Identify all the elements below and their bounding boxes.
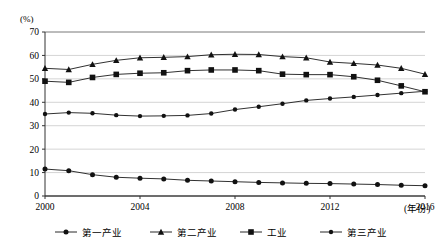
data-point-3-7 (209, 111, 213, 115)
data-point-0-1 (66, 168, 71, 173)
legend-label-0: 第一产业 (82, 227, 122, 238)
line-chart: 010203040506070 20002004200820122016 (%)… (0, 0, 442, 247)
y-tick-label-10: 10 (30, 168, 40, 178)
data-point-3-8 (233, 107, 237, 111)
data-point-3-4 (138, 114, 142, 118)
data-point-3-15 (399, 91, 403, 95)
data-point-0-7 (209, 179, 214, 184)
data-point-3-9 (257, 105, 261, 109)
legend-label-1: 第二产业 (177, 227, 217, 238)
data-point-2-2 (90, 75, 96, 81)
data-point-2-9 (256, 68, 262, 74)
data-point-0-6 (185, 178, 190, 183)
data-point-2-14 (375, 77, 381, 83)
data-point-2-12 (327, 72, 333, 78)
data-point-0-13 (351, 182, 356, 187)
legend-marker-circle-icon (64, 230, 69, 235)
data-point-2-0 (42, 78, 48, 84)
y-tick-label-0: 0 (34, 191, 39, 201)
data-point-2-7 (208, 67, 214, 73)
data-point-0-3 (114, 175, 119, 180)
data-point-2-4 (137, 70, 143, 76)
x-axis-title: (年份) (404, 203, 430, 215)
data-point-0-8 (233, 179, 238, 184)
data-point-3-1 (67, 110, 71, 114)
data-point-2-3 (113, 72, 119, 78)
y-tick-label-30: 30 (30, 121, 40, 131)
y-axis-unit-label: (%) (20, 14, 34, 24)
data-point-0-14 (375, 182, 380, 187)
data-point-3-13 (352, 95, 356, 99)
y-tick-label-70: 70 (30, 27, 40, 37)
data-point-3-10 (280, 101, 284, 105)
y-tick-label-40: 40 (30, 98, 40, 108)
x-tick-label-2008: 2008 (226, 202, 245, 212)
data-point-0-4 (138, 176, 143, 181)
data-point-3-14 (375, 93, 379, 97)
legend-label-3: 第三产业 (347, 227, 387, 238)
data-point-0-10 (280, 180, 285, 185)
y-tick-label-50: 50 (30, 74, 40, 84)
data-point-0-12 (328, 181, 333, 186)
plot-background (0, 0, 442, 247)
x-tick-label-2004: 2004 (131, 202, 150, 212)
chart-canvas: 010203040506070 20002004200820122016 (%)… (0, 0, 442, 247)
data-point-2-15 (398, 83, 404, 89)
data-point-2-11 (303, 72, 309, 78)
x-tick-label-2000: 2000 (36, 202, 55, 212)
data-point-2-6 (185, 68, 191, 74)
data-point-0-5 (161, 176, 166, 181)
data-point-3-2 (90, 111, 94, 115)
data-point-2-1 (66, 80, 72, 86)
legend-label-2: 工业 (267, 228, 287, 238)
data-point-0-16 (423, 183, 428, 188)
x-tick-label-2012: 2012 (321, 202, 340, 212)
data-point-0-15 (399, 183, 404, 188)
y-tick-label-20: 20 (30, 145, 40, 155)
data-point-2-13 (351, 74, 357, 80)
y-tick-label-60: 60 (30, 51, 40, 61)
legend-marker-dot-icon (329, 230, 333, 234)
data-point-3-5 (162, 114, 166, 118)
data-point-0-0 (43, 167, 48, 172)
legend-marker-square-icon (248, 229, 254, 235)
data-point-3-3 (114, 113, 118, 117)
data-point-3-11 (304, 98, 308, 102)
data-point-0-2 (90, 172, 95, 177)
data-point-3-12 (328, 96, 332, 100)
data-point-3-6 (185, 113, 189, 117)
data-point-2-8 (232, 67, 238, 73)
data-point-2-5 (161, 70, 167, 76)
data-point-3-16 (423, 89, 427, 93)
data-point-0-9 (256, 180, 261, 185)
data-point-3-0 (43, 112, 47, 116)
data-point-2-10 (280, 71, 286, 77)
data-point-0-11 (304, 181, 309, 186)
